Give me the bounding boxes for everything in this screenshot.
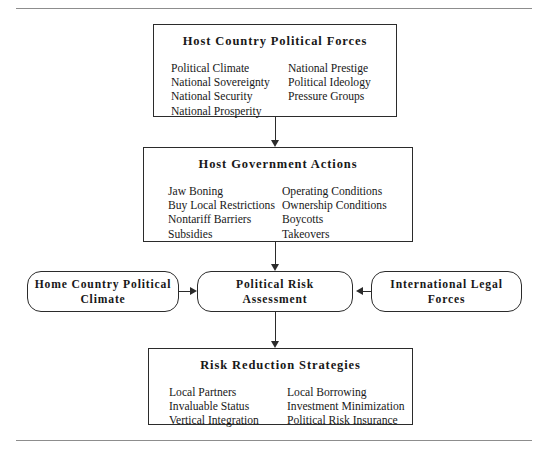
list-item: Vertical Integration	[169, 414, 287, 428]
list-item: Ownership Conditions	[282, 199, 387, 213]
list-item: Takeovers	[282, 228, 387, 242]
list-item: Local Partners	[169, 386, 287, 400]
node-column-1: Political Climate National Sovereignty N…	[171, 62, 288, 119]
list-item: Investment Minimization	[287, 400, 405, 414]
node-international-legal-forces[interactable]: International Legal Forces	[371, 271, 522, 312]
diagram-canvas: Host Country Political Forces Political …	[0, 0, 548, 456]
node-column-1: Local Partners Invaluable Status Vertica…	[169, 386, 287, 429]
list-item: Boycotts	[282, 213, 387, 227]
list-item: Pressure Groups	[288, 90, 371, 104]
list-item: Political Climate	[171, 62, 288, 76]
arrowhead-right-icon	[190, 287, 197, 295]
connector-legal-to-assessment	[363, 291, 371, 292]
list-item: National Prosperity	[171, 105, 288, 119]
connector-assessment-to-reduction	[275, 312, 276, 341]
node-title: Risk Reduction Strategies	[149, 358, 412, 373]
node-item-columns: Political Climate National Sovereignty N…	[154, 62, 396, 119]
list-item: National Sovereignty	[171, 76, 288, 90]
arrowhead-left-icon	[356, 287, 363, 295]
node-column-2: Operating Conditions Ownership Condition…	[282, 185, 387, 242]
node-political-risk-assessment[interactable]: Political Risk Assessment	[197, 271, 353, 312]
list-item: Political Risk Insurance	[287, 414, 405, 428]
node-item-columns: Local Partners Invaluable Status Vertica…	[149, 386, 412, 429]
list-item: Buy Local Restrictions	[168, 199, 282, 213]
node-column-2: National Prestige Political Ideology Pre…	[288, 62, 371, 119]
list-item: Political Ideology	[288, 76, 371, 90]
list-item: Jaw Boning	[168, 185, 282, 199]
node-host-government-actions[interactable]: Host Government Actions Jaw Boning Buy L…	[143, 147, 413, 242]
list-item: Invaluable Status	[169, 400, 287, 414]
node-host-country-political-forces[interactable]: Host Country Political Forces Political …	[153, 24, 397, 117]
node-title: Home Country Political Climate	[28, 277, 178, 307]
node-column-2: Local Borrowing Investment Minimization …	[287, 386, 405, 429]
node-home-country-political-climate[interactable]: Home Country Political Climate	[27, 271, 179, 312]
node-item-columns: Jaw Boning Buy Local Restrictions Nontar…	[144, 185, 412, 242]
arrowhead-down-icon	[271, 140, 279, 147]
connector-actions-to-assessment	[275, 242, 276, 264]
node-title: Political Risk Assessment	[198, 277, 352, 307]
list-item: Local Borrowing	[287, 386, 405, 400]
node-title: Host Government Actions	[144, 157, 412, 172]
node-title: International Legal Forces	[372, 277, 521, 307]
node-risk-reduction-strategies[interactable]: Risk Reduction Strategies Local Partners…	[148, 348, 413, 425]
page-rule-top	[16, 8, 532, 9]
list-item: National Prestige	[288, 62, 371, 76]
list-item: Nontariff Barriers	[168, 213, 282, 227]
arrowhead-down-icon	[271, 264, 279, 271]
arrowhead-down-icon	[271, 341, 279, 348]
node-title: Host Country Political Forces	[154, 34, 396, 49]
list-item: Operating Conditions	[282, 185, 387, 199]
connector-forces-to-actions	[275, 117, 276, 140]
list-item: National Security	[171, 90, 288, 104]
node-column-1: Jaw Boning Buy Local Restrictions Nontar…	[168, 185, 282, 242]
page-rule-bottom	[16, 440, 532, 441]
list-item: Subsidies	[168, 228, 282, 242]
